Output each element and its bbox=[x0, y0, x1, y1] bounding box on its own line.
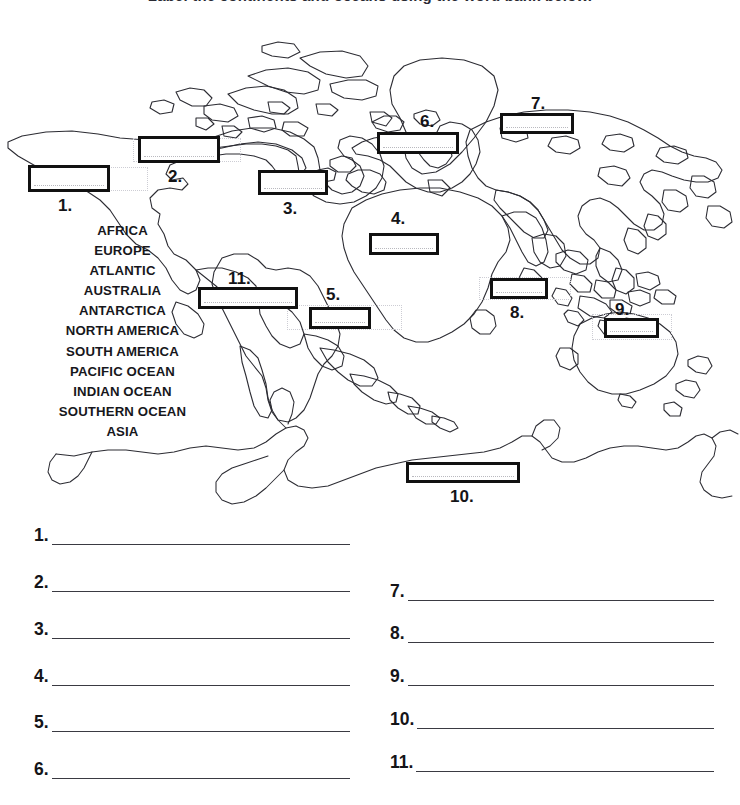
answer-number: 4. bbox=[34, 667, 52, 686]
map-blank-4-number: 4. bbox=[391, 209, 405, 229]
map-blank-1[interactable] bbox=[28, 165, 110, 192]
answer-row-11[interactable]: 11. bbox=[390, 746, 714, 772]
word-bank-item: INDIAN OCEAN bbox=[10, 382, 235, 402]
answer-number: 5. bbox=[34, 713, 52, 732]
map-blank-7-number: 7. bbox=[531, 94, 545, 114]
answer-line-2[interactable] bbox=[52, 575, 350, 592]
map-blank-10[interactable] bbox=[406, 462, 520, 483]
word-bank-item: AFRICA bbox=[10, 221, 235, 241]
answer-row-1[interactable]: 1. bbox=[34, 519, 350, 545]
map-blank-3[interactable] bbox=[258, 170, 328, 195]
answer-line-9[interactable] bbox=[408, 669, 714, 686]
answer-number: 11. bbox=[390, 753, 416, 772]
map-blank-6-number: 6. bbox=[420, 112, 434, 132]
map-blank-6[interactable] bbox=[377, 132, 459, 154]
map-blank-1-number: 1. bbox=[58, 196, 72, 216]
word-bank: AFRICA EUROPE ATLANTIC AUSTRALIA ANTARCT… bbox=[10, 221, 235, 442]
answer-number: 2. bbox=[34, 573, 52, 592]
answer-number: 6. bbox=[34, 760, 52, 779]
answer-line-3[interactable] bbox=[52, 622, 350, 639]
map-blank-9-number: 9. bbox=[615, 300, 629, 320]
map-blank-11-number: 11. bbox=[228, 269, 251, 289]
answer-line-5[interactable] bbox=[52, 715, 350, 732]
map-blank-4[interactable] bbox=[369, 233, 439, 255]
answer-number: 7. bbox=[390, 582, 408, 601]
map-blank-8-number: 8. bbox=[510, 303, 524, 323]
word-bank-item: PACIFIC OCEAN bbox=[10, 362, 235, 382]
answer-row-9[interactable]: 9. bbox=[390, 660, 714, 686]
answer-number: 1. bbox=[34, 526, 52, 545]
answer-row-6[interactable]: 6. bbox=[34, 753, 350, 779]
answer-row-5[interactable]: 5. bbox=[34, 706, 350, 732]
map-blank-7[interactable] bbox=[500, 113, 574, 134]
map-blank-8[interactable] bbox=[490, 278, 548, 299]
map-blank-2-number: 2. bbox=[168, 167, 182, 187]
answer-line-10[interactable] bbox=[417, 712, 714, 729]
map-blank-9[interactable] bbox=[604, 318, 659, 338]
landmass-asia bbox=[466, 110, 732, 294]
word-bank-item: SOUTHERN OCEAN bbox=[10, 402, 235, 422]
answer-line-11[interactable] bbox=[416, 755, 714, 772]
answer-line-8[interactable] bbox=[408, 626, 714, 643]
answer-number: 9. bbox=[390, 667, 408, 686]
map-blank-3-number: 3. bbox=[283, 199, 297, 219]
word-bank-item: NORTH AMERICA bbox=[10, 321, 235, 341]
word-bank-item: ATLANTIC bbox=[10, 261, 235, 281]
answer-number: 10. bbox=[390, 710, 417, 729]
answer-number: 8. bbox=[390, 624, 408, 643]
answer-line-1[interactable] bbox=[52, 528, 350, 545]
answer-line-4[interactable] bbox=[52, 669, 350, 686]
answer-row-2[interactable]: 2. bbox=[34, 566, 350, 592]
answer-row-8[interactable]: 8. bbox=[390, 617, 714, 643]
answer-row-3[interactable]: 3. bbox=[34, 613, 350, 639]
map-blank-11[interactable] bbox=[198, 287, 298, 309]
answer-row-10[interactable]: 10. bbox=[390, 703, 714, 729]
word-bank-item: EUROPE bbox=[10, 241, 235, 261]
answer-row-4[interactable]: 4. bbox=[34, 660, 350, 686]
page-title: Label the continents and oceans using th… bbox=[0, 0, 740, 4]
map-blank-5[interactable] bbox=[309, 307, 371, 329]
answer-line-6[interactable] bbox=[52, 762, 350, 779]
word-bank-item: SOUTH AMERICA bbox=[10, 342, 235, 362]
answer-number: 3. bbox=[34, 620, 52, 639]
answer-line-7[interactable] bbox=[408, 584, 714, 601]
map-blank-5-number: 5. bbox=[326, 285, 340, 305]
word-bank-item: ASIA bbox=[10, 422, 235, 442]
answer-row-7[interactable]: 7. bbox=[390, 575, 714, 601]
map-blank-2[interactable] bbox=[138, 136, 220, 163]
map-blank-10-number: 10. bbox=[450, 487, 474, 507]
